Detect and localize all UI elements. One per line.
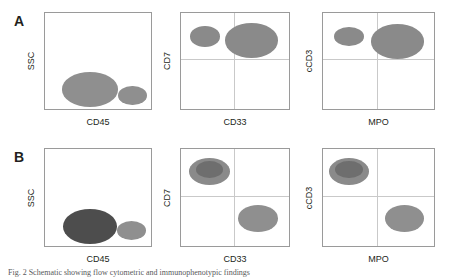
quadrant-horizontal-divider [181,196,289,197]
panel-letter-b: B [14,150,24,164]
cell-population-ccd3-positive-mpo-negative-population [334,27,365,47]
cell-population-lymphocyte-population [118,86,147,106]
x-axis-label-mpo: MPO [322,117,435,127]
scatter-plot-ccd3-vs-mpo [322,148,435,247]
y-axis-label-cd7: CD7 [162,41,172,81]
y-axis-label-cd7: CD7 [162,178,172,218]
cell-population-lymphocyte-population [117,221,146,240]
y-axis-label-ccd3: cCD3 [304,41,314,81]
quadrant-horizontal-divider [323,196,434,197]
scatter-plot-cd7-vs-cd33 [180,148,290,247]
cell-population-cd7-positive-cd33-positive-population [225,23,278,57]
x-axis-label-cd33: CD33 [180,254,290,264]
x-axis-label-mpo: MPO [322,254,435,264]
panel-letter-a: A [14,14,24,28]
cell-population-ccd3-positive-mpo-negative-population-inner-core [335,161,362,178]
y-axis-label-ssc: SSC [26,41,36,81]
x-axis-label-cd33: CD33 [180,117,290,127]
cell-population-cd33-positive-cd7-negative-population [238,205,279,232]
cell-population-cd7-positive-cd33-negative-population-inner-core [196,161,224,178]
scatter-plot-ccd3-vs-mpo [322,12,435,110]
cell-population-mpo-positive-ccd3-negative-population [385,205,425,232]
quadrant-vertical-divider [377,13,378,109]
x-axis-label-cd45: CD45 [44,254,152,264]
scatter-plot-ssc-vs-cd45 [44,12,152,110]
quadrant-vertical-divider [234,149,235,246]
x-axis-label-cd45: CD45 [44,117,152,127]
scatter-plot-ssc-vs-cd45 [44,148,152,247]
y-axis-label-ssc: SSC [26,178,36,218]
quadrant-horizontal-divider [323,59,434,60]
cell-population-blast-population [62,72,118,106]
quadrant-horizontal-divider [181,59,289,60]
figure-caption: Fig. 2 Schematic showing flow cytometric… [8,268,448,277]
cell-population-cd7-positive-cd33-negative-population [190,26,220,47]
quadrant-vertical-divider [377,149,378,246]
cell-population-ccd3-positive-mpo-positive-population [371,24,424,58]
scatter-plot-cd7-vs-cd33 [180,12,290,110]
cell-population-blast-population [63,209,117,244]
y-axis-label-ccd3: cCD3 [304,178,314,218]
